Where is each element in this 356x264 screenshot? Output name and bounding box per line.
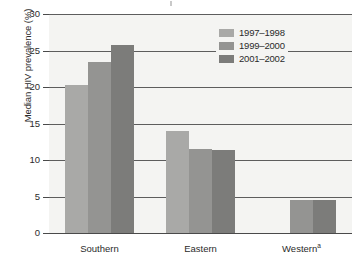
x-axis-label-text: Western: [282, 243, 317, 254]
x-axis-label-western: Westerna: [252, 243, 352, 254]
legend-item: 1999–2000: [219, 39, 285, 52]
bar: [111, 45, 134, 233]
legend-item: 2001–2002: [219, 52, 285, 65]
x-axis-label-text: Eastern: [184, 243, 217, 254]
x-axis-label-southern: Southern: [50, 243, 150, 254]
x-axis-label-footnote: a: [317, 242, 321, 249]
y-tick-label-5: 5: [14, 192, 40, 202]
y-tick-label-15: 15: [14, 119, 40, 129]
legend-swatch-icon: [219, 42, 234, 50]
bar: [212, 150, 235, 233]
y-tick-label-20: 20: [14, 82, 40, 92]
bar: [313, 200, 336, 233]
hiv-prevalence-bar-chart: Median HIV prevalence (%) 051015202530 S…: [0, 0, 356, 264]
bar: [65, 85, 88, 233]
x-axis-label-text: Southern: [80, 243, 119, 254]
gridline-25: [49, 51, 352, 52]
bar: [166, 131, 189, 233]
bar: [290, 200, 313, 233]
y-tick-label-25: 25: [14, 46, 40, 56]
x-axis-label-eastern: Eastern: [151, 243, 251, 254]
chart-legend: 1997–19981999–20002001–2002: [216, 24, 288, 67]
scan-artifact: [170, 1, 172, 6]
legend-item-label: 1999–2000: [239, 40, 285, 51]
y-tick-label-10: 10: [14, 155, 40, 165]
y-tick-label-0: 0: [14, 228, 40, 238]
legend-item-label: 1997–1998: [239, 27, 285, 38]
plot-area: [49, 14, 352, 233]
bar: [189, 149, 212, 233]
legend-swatch-icon: [219, 29, 234, 37]
gridline-0: [49, 233, 352, 234]
gridline-30: [49, 14, 352, 15]
legend-swatch-icon: [219, 55, 234, 63]
legend-item-label: 2001–2002: [239, 53, 285, 64]
bar: [88, 62, 111, 233]
legend-item: 1997–1998: [219, 26, 285, 39]
y-tick-label-30: 30: [14, 9, 40, 19]
